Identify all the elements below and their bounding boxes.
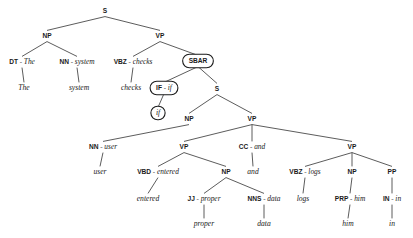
tree-node-lf_and[interactable]: and	[247, 167, 259, 176]
tree-node-vbz_checks[interactable]: VBZ - checks	[114, 57, 153, 66]
tree-node-vp_3[interactable]: VP	[180, 143, 189, 150]
tree-node-s_2[interactable]: S	[215, 85, 220, 92]
tree-node-lf_logs[interactable]: logs	[297, 194, 310, 203]
tree-node-lf_ent[interactable]: entered	[137, 194, 160, 203]
tree-node-nn_system[interactable]: NN - system	[59, 57, 95, 66]
tree-node-prp_him[interactable]: PRP - him	[335, 194, 366, 203]
tree-edge	[348, 205, 350, 219]
parse-tree-svg: SNPVPDT - TheNN - systemThesystemVBZ - c…	[0, 0, 413, 238]
tree-edge	[100, 153, 103, 167]
tree-edge	[217, 95, 252, 114]
tree-node-np_1[interactable]: NP	[42, 32, 52, 39]
tree-node-vbd_ent[interactable]: VBD - entered	[137, 167, 179, 176]
tree-edge	[77, 68, 79, 83]
tree-edge	[103, 125, 189, 142]
tree-node-sbar[interactable]: SBAR	[189, 57, 208, 64]
tree-node-np_4[interactable]: NP	[347, 168, 357, 175]
tree-edge	[204, 178, 226, 194]
tree-edge	[158, 153, 184, 167]
tree-node-np_3[interactable]: NP	[221, 168, 231, 175]
tree-node-nn_user[interactable]: NN - user	[89, 142, 117, 151]
tree-edge	[164, 67, 198, 83]
tree-node-vp_4[interactable]: VP	[348, 143, 357, 150]
tree-edge	[160, 42, 198, 56]
tree-edge	[131, 68, 133, 83]
tree-edge	[22, 68, 24, 83]
tree-edge	[352, 153, 392, 167]
tree-edge	[303, 178, 305, 194]
tree-edge	[226, 178, 264, 194]
tree-edge	[305, 153, 352, 167]
tree-node-cc_and[interactable]: CC - and	[239, 142, 266, 151]
tree-node-lf_proper[interactable]: proper	[193, 219, 214, 228]
tree-node-in_in[interactable]: IN - in	[383, 194, 401, 203]
tree-node-nns_data[interactable]: NNS - data	[248, 194, 281, 203]
tree-node-if_tag[interactable]: IF - if	[156, 83, 173, 92]
tree-node-lf_in[interactable]: in	[389, 219, 395, 228]
tree-edge	[189, 95, 217, 114]
tree-node-lf_him[interactable]: him	[342, 219, 354, 228]
tree-edge	[133, 42, 160, 57]
tree-node-vbz_logs[interactable]: VBZ - logs	[289, 167, 320, 176]
tree-node-vp_2[interactable]: VP	[248, 115, 257, 122]
tree-node-lf_user[interactable]: user	[93, 167, 106, 176]
tree-node-lf_system[interactable]: system	[69, 83, 90, 92]
tree-node-s_root[interactable]: S	[103, 7, 108, 14]
tree-edge	[47, 42, 77, 57]
tree-edge	[184, 153, 226, 167]
tree-node-pp_1[interactable]: PP	[388, 168, 397, 175]
tree-edge	[22, 42, 47, 57]
tree-edge	[252, 153, 253, 167]
tree-edge	[47, 17, 105, 31]
tree-node-lf_data[interactable]: data	[257, 219, 271, 228]
tree-node-lf_checks[interactable]: checks	[121, 83, 141, 92]
tree-node-vp_1[interactable]: VP	[156, 32, 165, 39]
tree-node-jj_prop[interactable]: JJ - proper	[187, 194, 220, 203]
tree-edge	[184, 125, 252, 142]
tree-edge	[252, 125, 352, 142]
node-label-layer: SNPVPDT - TheNN - systemThesystemVBZ - c…	[9, 7, 401, 228]
tree-node-np_2[interactable]: NP	[184, 115, 194, 122]
edge-layer	[22, 17, 392, 219]
tree-node-dt_the[interactable]: DT - The	[9, 57, 35, 66]
tree-node-lf_the[interactable]: The	[18, 83, 30, 92]
tree-edge	[350, 178, 352, 194]
tree-edge	[148, 178, 158, 194]
tree-edge	[158, 94, 164, 108]
tree-edge	[198, 67, 217, 84]
tree-edge	[105, 17, 160, 31]
parse-tree-canvas: SNPVPDT - TheNN - systemThesystemVBZ - c…	[0, 0, 413, 238]
